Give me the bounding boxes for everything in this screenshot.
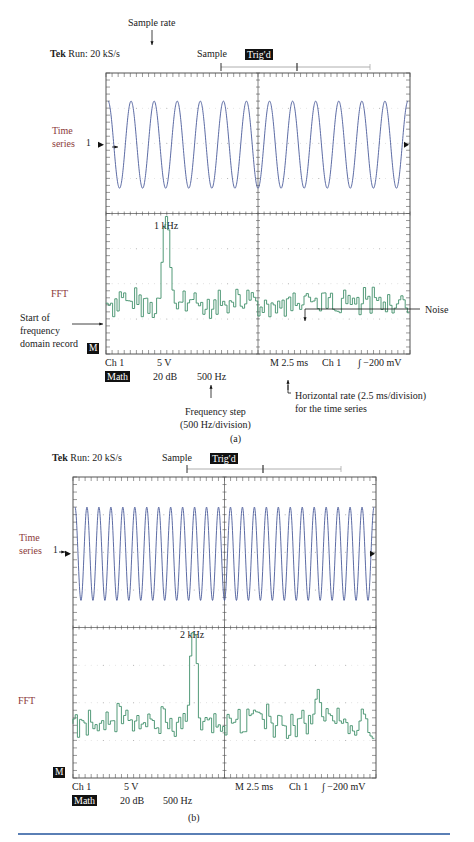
oscilloscope-plots — [0, 0, 474, 842]
